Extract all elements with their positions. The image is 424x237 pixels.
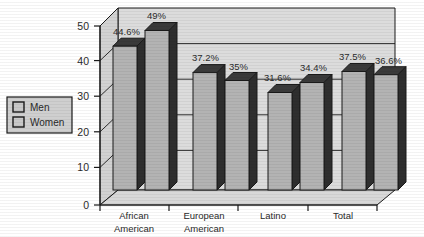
y-tick-label-10: 10: [77, 161, 89, 173]
legend-label-women: Women: [30, 117, 64, 128]
value-label-ea-men: 37.2%: [192, 52, 219, 63]
bar-ea-women[interactable]: [225, 73, 257, 191]
value-label-to-women: 36.6%: [375, 55, 402, 66]
x-label-latino: Latino: [260, 210, 286, 221]
bar-to-men[interactable]: [342, 64, 374, 191]
bar-group-african-american: [113, 23, 177, 191]
y-tick-label-20: 20: [77, 126, 89, 138]
bar-group-total: [342, 64, 406, 191]
value-label-to-men: 37.5%: [339, 51, 366, 62]
x-axis: African American European American Latin…: [100, 205, 377, 234]
bar-ea-men[interactable]: [193, 65, 225, 190]
x-label-african-american-line2: American: [114, 223, 154, 234]
value-label-aa-women: 49%: [147, 10, 167, 21]
legend-swatch-women-icon: [13, 117, 24, 127]
y-tick-label-0: 0: [83, 199, 89, 211]
legend-label-men: Men: [30, 102, 49, 113]
x-label-african-american-line1: African: [119, 210, 149, 221]
value-label-la-women: 34.4%: [300, 62, 327, 73]
x-label-total: Total: [333, 210, 353, 221]
legend-item-women[interactable]: Women: [13, 117, 64, 128]
bar-aa-women[interactable]: [145, 23, 177, 191]
value-label-la-men: 31.6%: [264, 72, 291, 83]
value-label-aa-men: 44.6%: [113, 26, 140, 37]
y-axis: 50 40 30 20 10 0: [77, 20, 100, 211]
chart-container: 50 40 30 20 10 0: [0, 0, 424, 237]
x-label-european-american-line2: American: [184, 223, 224, 234]
x-label-european-american-line1: European: [183, 210, 224, 221]
bar-la-men[interactable]: [268, 85, 300, 191]
legend-item-men[interactable]: Men: [13, 102, 49, 113]
plot-floor: [100, 190, 395, 205]
y-tick-label-30: 30: [77, 90, 89, 102]
bar-chart-svg: 50 40 30 20 10 0: [0, 0, 424, 237]
value-label-ea-women: 35%: [229, 61, 249, 72]
bar-group-latino: [268, 75, 332, 191]
legend: Men Women: [7, 97, 72, 133]
y-tick-label-40: 40: [77, 55, 89, 67]
y-tick-label-50: 50: [77, 20, 89, 32]
bar-aa-men[interactable]: [113, 38, 145, 190]
bar-group-european-american: [193, 65, 257, 190]
bar-la-women[interactable]: [300, 75, 332, 191]
bar-to-women[interactable]: [374, 67, 406, 190]
legend-swatch-men-icon: [13, 102, 24, 112]
